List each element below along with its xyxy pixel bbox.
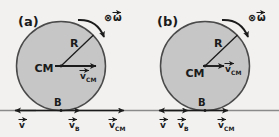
panel-a-radius-label: R: [70, 37, 79, 50]
rolling-disk-figure: (a) R CM v CM ⊗ ω B v: [0, 0, 279, 137]
panel-b-ground-vcm-label-group: v CM: [218, 120, 235, 132]
panel-b: (b) R CM v CM ⊗ ω B v: [157, 12, 266, 132]
panel-a-ground-vb-label-group: v B: [69, 120, 81, 132]
panel-a-ground-vcm-sublabel: CM: [115, 125, 125, 132]
panel-b-ground-v-left-label: v: [160, 120, 166, 130]
panel-a-omega-group: ⊗ ω: [104, 12, 122, 23]
panel-a-contact-label: B: [54, 97, 62, 108]
panel-b-omega-marker: ⊗: [248, 12, 256, 23]
panel-b-omega-label: ω: [257, 12, 266, 23]
panel-a-omega-marker: ⊗: [104, 12, 112, 23]
panel-a-ground-v-left-label-group: v: [19, 120, 28, 131]
panel-b-radius-label: R: [214, 37, 223, 50]
panel-a-label: (a): [18, 14, 39, 29]
panel-a-ground-vcm-label-group: v CM: [109, 120, 126, 132]
panel-a-omega-label: ω: [113, 12, 122, 23]
panel-b-center-label: CM: [185, 67, 204, 80]
panel-b-ground-vb-sublabel: B: [184, 125, 189, 132]
panel-a: (a) R CM v CM ⊗ ω B v: [15, 12, 125, 132]
panel-b-ground-vcm-sublabel: CM: [224, 125, 234, 132]
panel-b-label: (b): [157, 14, 178, 29]
panel-b-ground-v-left-label-group: v: [160, 120, 169, 131]
panel-a-ground-vb-sublabel: B: [75, 125, 80, 132]
panel-b-omega-group: ⊗ ω: [248, 12, 266, 23]
panel-b-ground-vb-label-group: v B: [178, 120, 190, 132]
panel-a-center-label: CM: [34, 62, 53, 75]
panel-b-vcm-sublabel: CM: [231, 69, 241, 76]
panel-a-vcm-sublabel: CM: [86, 76, 96, 83]
panel-a-ground-v-left-label: v: [19, 120, 25, 130]
panel-b-contact-label: B: [198, 97, 206, 108]
